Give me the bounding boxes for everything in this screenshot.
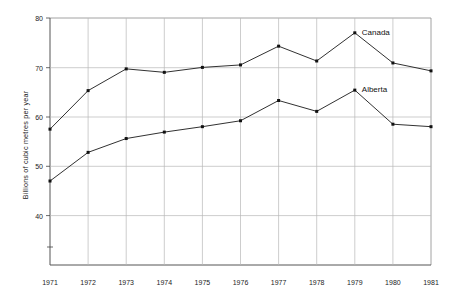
data-point-marker <box>391 123 394 126</box>
xtick-label-1973: 1973 <box>118 279 134 286</box>
chart-canvas: 80 70 60 50 40 Billions of cubic metres … <box>0 0 458 305</box>
xtick-label-1972: 1972 <box>80 279 96 286</box>
data-point-marker <box>49 180 52 183</box>
xtick-label-1981: 1981 <box>423 279 439 286</box>
xtick-label-1977: 1977 <box>271 279 287 286</box>
data-point-marker <box>277 99 280 102</box>
data-point-marker <box>277 45 280 48</box>
series-annotations: CanadaAlberta <box>362 28 391 94</box>
data-point-marker <box>163 71 166 74</box>
ytick-label-80: 80 <box>35 15 43 22</box>
y-axis-title: Billions of cubic metres per year <box>21 90 30 199</box>
data-point-marker <box>353 31 356 34</box>
data-point-marker <box>125 137 128 140</box>
data-point-marker <box>49 128 52 131</box>
y-axis-tick-labels: 80 70 60 50 40 <box>35 15 43 220</box>
xtick-label-1974: 1974 <box>157 279 173 286</box>
data-point-marker <box>353 89 356 92</box>
data-point-marker <box>315 110 318 113</box>
data-point-marker <box>391 61 394 64</box>
series-label-alberta: Alberta <box>362 85 388 94</box>
data-point-marker <box>315 59 318 62</box>
data-point-marker <box>125 67 128 70</box>
ytick-label-70: 70 <box>35 65 43 72</box>
ytick-label-40: 40 <box>35 213 43 220</box>
ytick-label-50: 50 <box>35 163 43 170</box>
xtick-label-1971: 1971 <box>42 279 58 286</box>
xtick-label-1980: 1980 <box>385 279 401 286</box>
data-point-marker <box>201 66 204 69</box>
xtick-label-1978: 1978 <box>309 279 325 286</box>
data-point-marker <box>239 119 242 122</box>
xtick-label-1975: 1975 <box>195 279 211 286</box>
data-point-marker <box>87 89 90 92</box>
data-point-marker <box>87 151 90 154</box>
ytick-label-60: 60 <box>35 114 43 121</box>
vertical-gridlines <box>88 18 393 265</box>
data-point-marker <box>430 125 433 128</box>
data-point-marker <box>163 131 166 134</box>
data-point-marker <box>201 125 204 128</box>
x-axis-tick-labels: 1971 1972 1973 1974 1975 1976 1977 1978 … <box>42 279 439 286</box>
xtick-label-1976: 1976 <box>233 279 249 286</box>
series-label-canada: Canada <box>362 28 391 37</box>
line-chart: 80 70 60 50 40 Billions of cubic metres … <box>0 0 458 305</box>
data-point-marker <box>430 69 433 72</box>
data-point-marker <box>239 63 242 66</box>
xtick-label-1979: 1979 <box>347 279 363 286</box>
